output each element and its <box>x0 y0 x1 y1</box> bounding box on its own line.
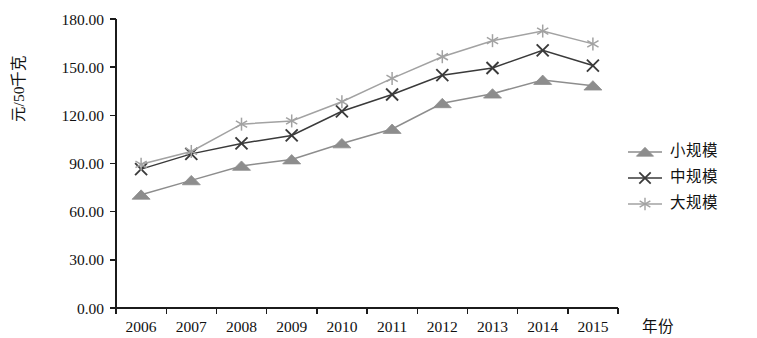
legend-item-2[interactable]: 中规模 <box>628 168 718 185</box>
data-point-marker-asterisk <box>587 37 598 50</box>
legend-item-1[interactable]: 小规模 <box>628 142 718 159</box>
x-tick-label: 2015 <box>577 318 608 335</box>
triangle-marker <box>182 175 200 184</box>
y-tick-label: 90.00 <box>69 155 104 172</box>
x-tick-label: 2010 <box>326 318 357 335</box>
legend-item-3[interactable]: 大规模 <box>628 194 718 211</box>
series-line <box>141 31 593 164</box>
x-axis-title: 年份 <box>642 318 674 335</box>
x-tick-label: 2013 <box>477 318 508 335</box>
series-3 <box>135 25 598 171</box>
data-point-marker-triangle <box>182 175 200 184</box>
data-point-marker-triangle <box>132 190 150 199</box>
x-axis-ticks <box>116 308 618 314</box>
data-point-marker-x <box>537 44 549 56</box>
y-tick-label: 0.00 <box>77 300 104 317</box>
y-tick-label: 150.00 <box>61 59 104 76</box>
legend-label: 大规模 <box>670 194 718 211</box>
y-axis-title: 元/50千克 <box>10 55 27 123</box>
triangle-marker <box>132 190 150 199</box>
x-tick-label: 2006 <box>126 318 157 335</box>
chart-legend: 小规模中规模大规模 <box>628 142 718 211</box>
x-tick-label: 2011 <box>377 318 407 335</box>
data-point-marker-triangle <box>534 75 552 84</box>
x-tick-label: 2007 <box>176 318 207 335</box>
series-2 <box>135 44 599 175</box>
data-point-marker-triangle <box>283 155 301 164</box>
y-tick-label: 180.00 <box>61 11 104 28</box>
y-tick-label: 60.00 <box>69 203 104 220</box>
x-tick-label: 2009 <box>276 318 307 335</box>
chart-svg: 0.0030.0060.0090.00120.00150.00180.00 元/… <box>0 0 757 338</box>
data-point-marker-asterisk <box>437 50 448 63</box>
legend-label: 中规模 <box>670 168 718 185</box>
data-point-marker-asterisk <box>386 72 397 85</box>
data-point-marker-triangle <box>433 98 451 107</box>
triangle-marker <box>333 138 351 147</box>
y-tick-label: 120.00 <box>61 107 104 124</box>
data-point-marker-triangle <box>333 138 351 147</box>
data-series-layer <box>132 25 602 200</box>
triangle-marker <box>534 75 552 84</box>
y-axis-ticks <box>110 19 116 308</box>
line-chart-figure: 0.0030.0060.0090.00120.00150.00180.00 元/… <box>0 0 757 338</box>
x-tick-label: 2012 <box>427 318 458 335</box>
series-line <box>141 80 593 195</box>
y-axis-tick-labels: 0.0030.0060.0090.00120.00150.00180.00 <box>61 11 104 317</box>
x-axis-tick-labels: 2006200720082009201020112012201320142015 <box>126 318 609 335</box>
triangle-marker <box>433 98 451 107</box>
x-tick-label: 2014 <box>527 318 558 335</box>
x-axis-group: 2006200720082009201020112012201320142015… <box>116 308 674 335</box>
x-tick-label: 2008 <box>226 318 257 335</box>
y-tick-label: 30.00 <box>69 251 104 268</box>
triangle-marker <box>484 89 502 98</box>
data-point-marker-x <box>587 60 599 72</box>
y-axis-group: 0.0030.0060.0090.00120.00150.00180.00 元/… <box>10 11 116 317</box>
series-line <box>141 50 593 169</box>
legend-label: 小规模 <box>670 142 718 159</box>
data-point-marker-x <box>386 88 398 100</box>
triangle-marker <box>283 155 301 164</box>
data-point-marker-triangle <box>484 89 502 98</box>
series-1 <box>132 75 602 199</box>
data-point-marker-asterisk <box>186 145 197 158</box>
